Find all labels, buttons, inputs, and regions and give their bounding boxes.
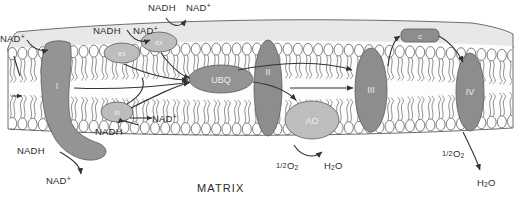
cytochrome-c-label: c: [418, 32, 422, 41]
complex-iv-label: IV: [466, 87, 475, 97]
complex-iv[interactable]: IV: [456, 53, 484, 131]
etc-diagram: I II III IV UBQ AO c: [0, 0, 520, 207]
label-water-iv: H2O: [477, 177, 496, 188]
label-nad-matrix: NAD+: [46, 175, 71, 186]
arrow-iv-oxygen-water: [463, 132, 480, 170]
label-nad-left-upper: NAD+: [0, 33, 25, 44]
alternative-oxidase[interactable]: AO: [285, 101, 339, 139]
nadh-dh-internal-label: in: [114, 109, 120, 116]
label-nadh-internal: NADH: [95, 126, 123, 137]
label-oxygen-ao: 1/2O2: [276, 160, 298, 171]
ubiquinone-label: UBQ: [211, 75, 231, 85]
label-water-ao: H2O: [324, 160, 343, 171]
complex-iii-label: III: [367, 85, 375, 95]
cytochrome-c[interactable]: c: [401, 29, 439, 42]
complex-i-label: I: [56, 81, 59, 91]
nadh-dh-external-2-label: ex: [155, 39, 163, 46]
figure-root: I II III IV UBQ AO c: [0, 0, 520, 207]
complex-iii[interactable]: III: [355, 48, 387, 132]
matrix-label: MATRIX: [197, 182, 244, 194]
arrow-ao-oxygen-water: [294, 145, 322, 156]
label-nadh-top-outer: NADH: [148, 2, 176, 13]
nadh-dh-external-label: ex: [118, 50, 126, 57]
label-oxygen-iv: 1/2O2: [442, 148, 464, 159]
alternative-oxidase-label: AO: [305, 116, 318, 126]
nadh-dehydrogenase-external[interactable]: ex: [104, 43, 140, 63]
label-nadh-top-inner: NADH: [93, 25, 121, 36]
label-nadh-matrix: NADH: [17, 145, 45, 156]
label-nad-top-outer: NAD+: [186, 2, 211, 13]
nadh-dehydrogenase-internal[interactable]: in: [101, 102, 133, 122]
complex-ii-label: II: [265, 67, 270, 77]
label-nad-top-inner: NAD+: [133, 25, 158, 36]
label-nad-internal: NAD+: [152, 113, 177, 124]
